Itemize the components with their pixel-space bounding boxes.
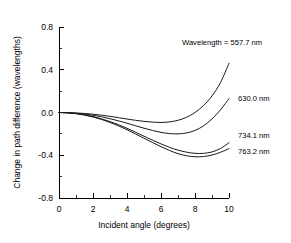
x-tick-label-2: 4 [125, 204, 130, 214]
x-tick-label-3: 6 [159, 204, 164, 214]
x-tick-label-5: 10 [224, 204, 234, 214]
annotation-734-1: 734.1 nm [238, 131, 270, 140]
curve-763-2 [59, 113, 229, 157]
annotation-763-2: 763.2 nm [238, 147, 270, 156]
y-tick-label-0: 0.8 [41, 22, 53, 32]
curve-734-1 [59, 113, 229, 154]
annotation-557-7: Wavelength = 557.7 nm [182, 38, 262, 47]
axes [59, 27, 229, 198]
y-tick-label-3: -0.4 [38, 150, 53, 160]
y-axis-title: Change in path difference (wavelengths) [12, 36, 22, 189]
chart-svg: 0.8 0.4 0.0 -0.4 -0.8 0 2 4 6 8 10 Incid… [0, 0, 291, 243]
x-tick-label-0: 0 [57, 204, 62, 214]
data-curves [59, 63, 229, 156]
x-tick-label-1: 2 [91, 204, 96, 214]
y-tick-label-1: 0.4 [41, 65, 53, 75]
annotation-630-0: 630.0 nm [238, 94, 270, 103]
curve-557-7 [59, 63, 229, 122]
chart-figure: 0.8 0.4 0.0 -0.4 -0.8 0 2 4 6 8 10 Incid… [0, 0, 291, 243]
x-tick-label-4: 8 [193, 204, 198, 214]
curve-630-0 [59, 99, 229, 134]
y-tick-label-2: 0.0 [41, 108, 53, 118]
x-axis-title: Incident angle (degrees) [98, 220, 190, 230]
y-tick-label-4: -0.8 [38, 193, 53, 203]
